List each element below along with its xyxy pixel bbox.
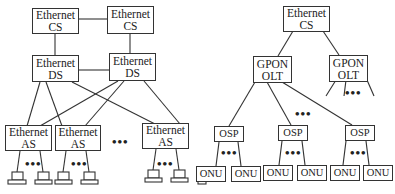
computer-terminal-icon [55,172,72,184]
computer-terminal-icon [8,172,26,184]
terminal-icons [8,170,206,184]
ethernet-as-node-1: Ethernet AS [5,125,52,151]
node-label: ONU [334,167,357,179]
ellipsis-as: ••• [112,139,129,145]
node-label: ONU [367,167,390,179]
onu-node-5: ONU [330,165,360,181]
node-label: Ethernet [36,57,75,69]
node-label: CS [299,19,313,31]
ellipsis-onu: ••• [350,150,367,156]
ethernet-ds-node-1: Ethernet DS [32,55,79,82]
node-label: ONU [200,168,223,180]
onu-node-1: ONU [196,166,226,182]
node-label: Ethernet [287,7,326,19]
node-label: Ethernet [59,126,98,138]
ellipsis-olt-fanout: ••• [345,90,362,96]
ellipsis-terminals: ••• [157,161,174,167]
ellipsis-terminals: ••• [25,161,42,167]
node-label: GPON [333,57,364,69]
osp-node-3: OSP [345,125,375,141]
ethernet-as-node-3: Ethernet AS [142,123,189,149]
computer-terminal-icon [171,170,188,182]
ethernet-cs-node-right: Ethernet CS [283,6,330,32]
onu-node-2: ONU [231,166,261,182]
node-label: AS [71,138,86,150]
gpon-olt-node-2: GPON OLT [329,55,368,82]
computer-terminal-icon [81,172,98,184]
node-label: OLT [338,69,359,81]
node-label: OLT [262,70,283,82]
node-label: CS [48,21,62,33]
computer-terminal-icon [145,170,162,182]
node-label: Ethernet [146,124,185,136]
node-label: Ethernet [36,9,75,21]
ellipsis-terminals: ••• [71,161,88,167]
onu-node-3: ONU [263,165,293,181]
ellipsis-onu: ••• [285,150,302,156]
node-label: OSP [283,127,302,139]
onu-node-6: ONU [363,165,393,181]
node-label: DS [48,69,63,81]
ethernet-as-node-2: Ethernet AS [55,125,101,151]
gpon-olt-node-1: GPON OLT [253,56,292,83]
node-label: AS [21,138,36,150]
node-label: Ethernet [113,55,152,67]
onu-node-4: ONU [297,165,327,181]
node-label: AS [158,136,173,148]
ethernet-cs-node-1: Ethernet CS [32,8,79,34]
node-label: OSP [350,127,369,139]
node-label: OSP [219,128,238,140]
node-label: ONU [301,167,324,179]
node-label: CS [123,20,137,32]
ethernet-cs-node-2: Ethernet CS [107,6,154,34]
node-label: Ethernet [9,126,48,138]
osp-node-1: OSP [214,126,244,142]
node-label: ONU [235,168,258,180]
computer-terminal-icon [35,172,52,184]
node-label: Ethernet [111,8,150,20]
node-label: ONU [267,167,290,179]
node-label: GPON [257,58,288,70]
node-label: DS [125,67,140,79]
ellipsis-onu: ••• [221,150,238,156]
ellipsis-osp: ••• [295,111,312,117]
ethernet-ds-node-2: Ethernet DS [109,53,156,81]
osp-node-2: OSP [278,125,308,141]
